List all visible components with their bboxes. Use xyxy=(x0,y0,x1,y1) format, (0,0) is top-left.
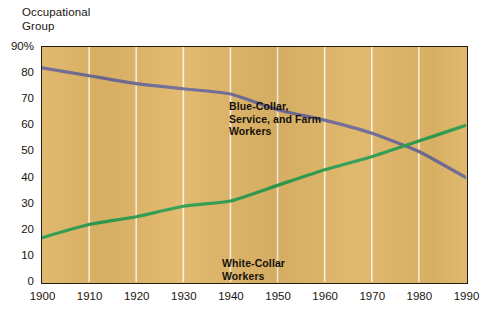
x-tick-label-1930: 1930 xyxy=(157,290,211,302)
x-tick-label-1910: 1910 xyxy=(63,290,117,302)
series-label-white-collar: White-Collar Workers xyxy=(222,257,285,282)
x-tick-label-1970: 1970 xyxy=(345,290,399,302)
y-tick-label-20: 20 xyxy=(0,223,34,235)
x-tick-label-1980: 1980 xyxy=(392,290,446,302)
x-tick-label-1940: 1940 xyxy=(204,290,258,302)
vertical-gridlines xyxy=(89,47,419,282)
y-tick-label-80: 80 xyxy=(0,66,34,78)
y-tick-label-50: 50 xyxy=(0,144,34,156)
x-tick-label-1920: 1920 xyxy=(110,290,164,302)
x-tick-label-1960: 1960 xyxy=(298,290,352,302)
y-tick-label-0: 0 xyxy=(0,275,34,287)
series-label-blue-collar: Blue-Collar, Service, and Farm Workers xyxy=(229,100,321,138)
y-tick-label-30: 30 xyxy=(0,197,34,209)
plot-area: Blue-Collar, Service, and Farm Workers W… xyxy=(41,46,468,284)
y-tick-label-60: 60 xyxy=(0,118,34,130)
y-tick-label-10: 10 xyxy=(0,249,34,261)
y-axis-title: Occupational Group xyxy=(22,6,90,33)
x-tick-label-1990: 1990 xyxy=(440,290,493,302)
occupational-group-line-chart: Occupational Group 90%80706050403020100 … xyxy=(0,0,493,321)
y-tick-label-90: 90% xyxy=(0,40,34,52)
x-tick-label-1900: 1900 xyxy=(16,290,70,302)
plot-svg xyxy=(42,47,466,282)
y-tick-label-70: 70 xyxy=(0,92,34,104)
x-tick-label-1950: 1950 xyxy=(251,290,305,302)
series-lines xyxy=(42,68,466,238)
y-tick-label-40: 40 xyxy=(0,171,34,183)
line-white-collar xyxy=(42,125,466,237)
